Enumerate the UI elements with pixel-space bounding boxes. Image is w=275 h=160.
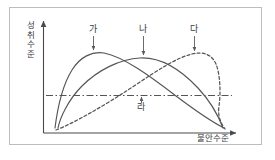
series-ga-curve [55, 53, 224, 128]
series-na-curve [58, 58, 223, 128]
curve-label-ra: 라 [137, 103, 145, 112]
anxiety-performance-figure: 성취수준 불안수준 가 나 다 라 [0, 0, 275, 160]
series-da-curve [56, 53, 225, 130]
curve-label-na: 나 [139, 25, 147, 34]
plot-canvas [0, 0, 275, 160]
x-axis-label: 불안수준 [197, 134, 229, 143]
y-axis-label: 성취수준 [22, 21, 34, 59]
curve-label-ga: 가 [89, 25, 97, 34]
curve-label-da: 다 [190, 25, 198, 34]
